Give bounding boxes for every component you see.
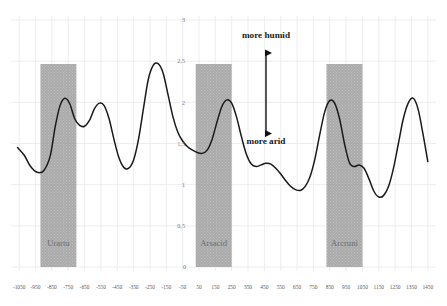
x-tick-label: 550 [277,284,285,290]
x-tick-label: 250 [228,284,236,290]
x-tick-label: 650 [293,284,301,290]
x-tick-label: 1150 [373,284,384,290]
x-tick-label: -50 [179,284,186,290]
annotation-more-humid: more humid [242,30,290,40]
y-tick-label: 0 [183,263,186,270]
x-tick-label: 750 [309,284,317,290]
band-label-arcruni: Arcruni [331,238,358,248]
x-tick-label: -350 [129,284,139,290]
y-tick-label: 0,5 [177,222,185,229]
annotation-more-arid: more arid [247,136,286,146]
x-tick-label: 50 [196,284,202,290]
band-label-urartu: Urartu [47,238,70,248]
x-tick-label: -550 [96,284,106,290]
x-tick-label: 850 [326,284,334,290]
climate-line-chart: -1050-950-850-750-650-550-450-350-250-15… [0,0,447,306]
period-band-arsacid [196,64,232,267]
x-tick-label: -750 [63,284,73,290]
x-tick-label: 1350 [406,284,417,290]
x-tick-label: -450 [112,284,122,290]
x-tick-label: -650 [80,284,90,290]
y-tick-label: 3 [182,16,185,23]
x-tick-label: -1050 [13,284,26,290]
x-tick-label: 450 [260,284,268,290]
x-tick-label: -950 [31,284,41,290]
chart-canvas: -1050-950-850-750-650-550-450-350-250-15… [0,0,447,306]
period-band-urartu [40,64,76,267]
x-tick-label: 1450 [422,284,433,290]
x-tick-label: 1050 [357,284,368,290]
x-tick-label: 350 [244,284,252,290]
x-tick-label: -150 [161,284,171,290]
y-tick-label: 1,5 [177,140,185,147]
y-tick-label: 1 [182,181,185,188]
band-label-arsacid: Arsacid [200,238,227,248]
x-tick-label: -250 [145,284,155,290]
x-tick-label: 950 [342,284,350,290]
y-tick-label: 2 [182,99,185,106]
x-tick-label: 150 [211,284,219,290]
x-tick-label: 1250 [390,284,401,290]
y-tick-label: 2,5 [177,57,185,64]
x-tick-label: -850 [47,284,57,290]
